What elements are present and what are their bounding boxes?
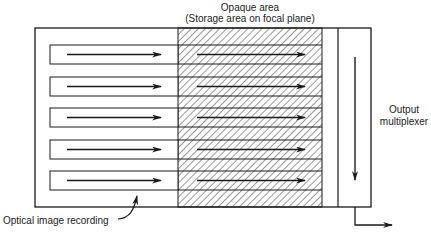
output-arrow — [355, 207, 392, 225]
image-row-arrows — [67, 55, 161, 181]
ccd-diagram — [0, 0, 431, 244]
